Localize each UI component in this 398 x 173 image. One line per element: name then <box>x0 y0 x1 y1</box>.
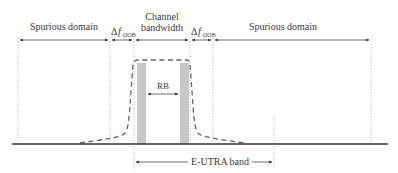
f-symbol: f <box>118 26 122 37</box>
bandwidth-label: bandwidth <box>141 22 183 33</box>
spurious-domain-left-label: Spurious domain <box>30 21 98 32</box>
eutra-band-label: E-UTRA band <box>191 156 249 167</box>
rb-bar-left <box>137 63 146 144</box>
channel-label: Channel <box>145 11 179 22</box>
oob-subscript: OOB <box>203 32 216 38</box>
rb-label: RB <box>157 81 169 91</box>
oob-subscript: OOB <box>123 32 136 38</box>
delta-symbol: Δ <box>191 26 198 37</box>
spurious-domain-right-label: Spurious domain <box>249 21 317 32</box>
emission-mask-curve <box>80 60 245 143</box>
delta-symbol: Δ <box>111 26 118 37</box>
rb-bar-right <box>180 63 189 144</box>
boundary-lines <box>18 38 371 170</box>
spectrum-emission-diagram: Spurious domain Channel bandwidth Spurio… <box>0 0 398 173</box>
delta-f-oob-right-label: Δ f OOB <box>191 26 216 38</box>
delta-f-oob-left-label: Δ f OOB <box>111 26 136 38</box>
f-symbol: f <box>198 26 202 37</box>
